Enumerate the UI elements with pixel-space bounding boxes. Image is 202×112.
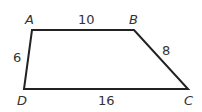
vertex-label-a: A xyxy=(24,12,34,27)
side-length-ab: 10 xyxy=(78,12,95,27)
side-length-bc: 8 xyxy=(162,43,170,58)
trapezoid-diagram: A B C D 10 8 16 6 xyxy=(0,0,202,112)
side-length-dc: 16 xyxy=(98,93,115,108)
diagram-svg: A B C D 10 8 16 6 xyxy=(0,0,202,112)
vertex-label-b: B xyxy=(129,12,138,27)
quadrilateral-abcd xyxy=(24,30,188,89)
vertex-label-c: C xyxy=(184,93,194,108)
vertex-label-d: D xyxy=(17,93,27,108)
side-length-ad: 6 xyxy=(13,50,21,65)
